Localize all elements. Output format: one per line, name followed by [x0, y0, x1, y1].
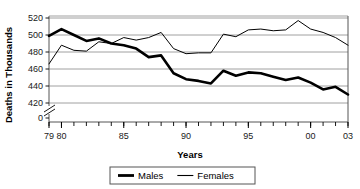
gridlines — [49, 18, 348, 103]
y-tick-label: 420 — [28, 98, 43, 108]
y-tick-label: 440 — [28, 81, 43, 91]
x-axis-ticks: 79808590950003 — [44, 122, 353, 141]
y-tick-label: 480 — [28, 47, 43, 57]
y-tick-label: 500 — [28, 30, 43, 40]
x-tick-label: 03 — [343, 131, 353, 141]
legend: MalesFemales — [110, 167, 255, 184]
x-tick-label: 85 — [119, 131, 129, 141]
y-axis-title: Deaths in Thousands — [3, 27, 14, 123]
chart-container: 5205004804604404200 79808590950003 Death… — [0, 0, 360, 189]
line-chart: 5205004804604404200 79808590950003 Death… — [0, 0, 360, 189]
series-line-females — [49, 21, 348, 64]
x-tick-label: 00 — [306, 131, 316, 141]
x-tick-label: 79 — [44, 131, 54, 141]
y-tick-label: 460 — [28, 64, 43, 74]
y-tick-label: 520 — [28, 13, 43, 23]
data-series-layer — [49, 21, 348, 95]
y-tick-label: 0 — [38, 113, 43, 123]
legend-label-males: Males — [138, 170, 164, 181]
series-line-males — [49, 29, 348, 94]
y-axis-ticks: 5205004804604404200 — [28, 13, 49, 123]
x-tick-label: 95 — [243, 131, 253, 141]
legend-label-females: Females — [197, 170, 234, 181]
x-tick-label: 90 — [181, 131, 191, 141]
x-tick-label: 80 — [56, 131, 66, 141]
x-axis-title: Years — [177, 149, 202, 160]
